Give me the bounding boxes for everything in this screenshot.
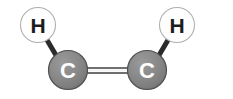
carbon-atom-left: C [49, 51, 88, 90]
carbon-atom-right: C [128, 51, 167, 90]
hydrogen-atom-left: H [21, 8, 56, 43]
bond-carbon-carbon-double [84, 68, 131, 73]
hydrogen-label-right: H [169, 14, 184, 37]
carbon-label-left: C [60, 58, 76, 83]
carbon-label-right: C [139, 58, 155, 83]
hydrogen-label-left: H [30, 14, 45, 37]
molecule-svg: C C H H [0, 0, 233, 99]
molecule-diagram-canvas: C C H H [0, 0, 233, 99]
hydrogen-atom-right: H [160, 8, 195, 43]
